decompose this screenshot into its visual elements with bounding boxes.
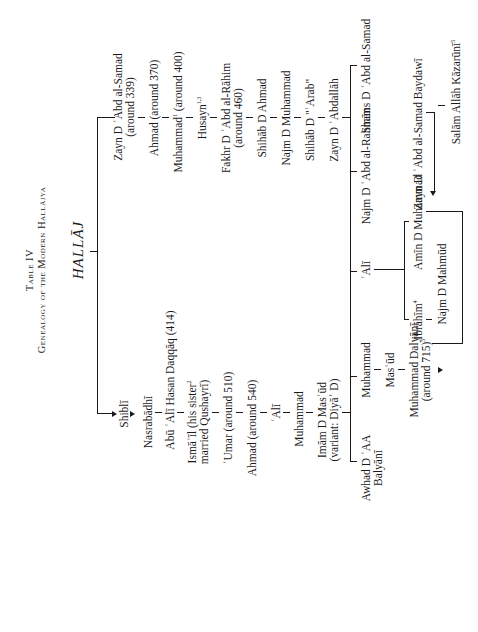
root-bracket <box>97 117 98 414</box>
person-fakhr: Fakhr D ʿAbd al-Rāhim <box>220 63 232 173</box>
connector <box>350 65 357 66</box>
connector <box>350 171 357 172</box>
person-shihab-ahmad: Shihāb D Ahmad <box>256 78 268 157</box>
connector <box>162 117 169 118</box>
connector <box>342 412 350 413</box>
person-fakhr-date: (around 460) <box>232 88 244 148</box>
connector <box>138 117 145 118</box>
person-masud: Masʿūd <box>384 352 396 387</box>
connector <box>155 412 162 413</box>
connector <box>434 112 435 192</box>
person-ahmad-370: Ahmad (around 370) <box>148 60 160 156</box>
person-salam-allah: Salām Allāh Kāzarūnī5 <box>450 40 462 145</box>
connector <box>432 343 462 344</box>
connector <box>212 412 219 413</box>
connector <box>236 412 243 413</box>
person-ali-gen2: ʿAlī <box>360 261 372 280</box>
connector <box>374 269 404 270</box>
connector <box>398 369 405 370</box>
connector <box>246 117 253 118</box>
person-awhad: Awhad D ʿAA <box>360 435 372 502</box>
person-imam-masud-variant: (variant: Diyāʾ D) <box>328 378 340 461</box>
arrow-left-icon <box>430 191 436 196</box>
connector <box>462 211 463 344</box>
connector <box>350 271 357 272</box>
person-muhammad: Muhammad <box>293 391 305 447</box>
person-zayn-abdallah: Zayn D ʿAbdallāh <box>328 78 340 162</box>
connector <box>426 319 432 320</box>
person-zayn-baydawi: Zayn D ʿAbd al-Samad Baydawī <box>412 58 424 209</box>
connector <box>186 117 193 118</box>
person-imam-masud: Imām D Masʿūd <box>316 382 328 458</box>
connector <box>306 412 313 413</box>
person-shibli: Shiblī <box>118 400 130 427</box>
person-ismail-note: married Qushayrī) <box>198 380 210 465</box>
connector <box>438 105 445 106</box>
connector <box>426 211 462 212</box>
connector <box>404 221 409 222</box>
person-zayn-abd-al-samad: Zayn D ʿAbd al-Samad <box>112 53 124 161</box>
person-husayn: Husayn1,3 <box>196 97 208 140</box>
person-najm-mahmud: Najm D Mahmūd <box>436 243 448 324</box>
connector <box>283 412 290 413</box>
table-number: Table IV <box>24 249 36 291</box>
gen2-bracket <box>350 65 351 462</box>
connector <box>342 117 350 118</box>
person-ibrahim: Ibrāhīm4 <box>412 300 424 339</box>
person-abu-ali-daqqaq: Abū ʿAlī Hasan Daqqāq (414) <box>164 310 176 449</box>
person-shams: Shams D ʿAbd al-Samad <box>360 19 372 134</box>
connector <box>374 369 381 370</box>
person-awhad-nisba: Balyānī <box>372 450 384 486</box>
person-nasrabadhi: Nasrabādhī <box>142 396 154 448</box>
person-ismail: Ismāʿīl (his sister2 <box>186 381 198 464</box>
genealogy-table: Table IV Genealogy of the Modern Hallājy… <box>0 0 478 632</box>
person-najm-muhammad: Najm D Muhammad <box>280 70 292 165</box>
arrow-down-icon <box>112 411 117 417</box>
connector <box>404 319 409 320</box>
connector <box>350 461 357 462</box>
connector <box>270 117 277 118</box>
root-hallaj: HALLĀJ <box>72 221 84 280</box>
connector <box>318 117 325 118</box>
connector <box>177 412 184 413</box>
connector <box>210 117 217 118</box>
ali-bracket <box>404 222 405 320</box>
table-title: Genealogy of the Modern Hallājya <box>36 187 48 354</box>
person-shihab-arab: Shihāb D "ʿArab" <box>304 79 316 161</box>
person-ali: ʿAlī <box>270 404 282 423</box>
person-dalyani-date: (around 715)5 <box>420 339 432 402</box>
connector <box>294 117 301 118</box>
person-muhammad-gen2: Muhammad <box>360 342 372 398</box>
arrow-down-icon <box>438 367 443 373</box>
person-ahmad-540: Ahmad (around 540) <box>246 380 258 476</box>
person-zayn-date: (around 339) <box>124 77 136 137</box>
person-muhammad-400: Muhammad1 (around 400) <box>172 51 184 172</box>
connector <box>260 412 267 413</box>
arrow-down-icon <box>130 411 135 417</box>
person-umar: ʿUmar (around 510) <box>222 372 234 465</box>
connector <box>350 376 357 377</box>
